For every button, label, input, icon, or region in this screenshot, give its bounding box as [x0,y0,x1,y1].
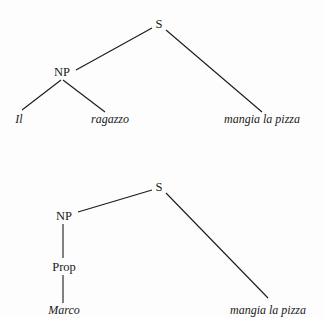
tree-1-leaf-noun: ragazzo [91,113,129,125]
tree-2-node-np: NP [56,210,72,223]
tree-1-node-np: NP [54,66,70,79]
edge-np-det-tree-1 [22,80,61,110]
tree-2-node-s: S [156,181,163,194]
tree-1-node-s: S [156,18,163,31]
tree-2-leaf-vp: mangia la pizza [230,304,306,316]
edge-s-vp-tree-1 [166,30,262,112]
edge-s-np-tree-1 [76,28,152,70]
edge-np-noun-tree-1 [63,80,105,112]
tree-1-leaf-vp: mangia la pizza [224,113,300,125]
tree-2-node-prop: Prop [52,261,76,274]
tree-1-leaf-det: Il [15,113,22,125]
edge-s-np-tree-2 [78,190,152,212]
edge-s-vp-tree-2 [166,193,268,298]
tree-2-leaf-name: Marco [48,304,80,316]
syntax-tree-figure: S NP Il ragazzo mangia la pizza S NP Pro… [0,0,323,318]
tree-1-edges [0,0,323,318]
